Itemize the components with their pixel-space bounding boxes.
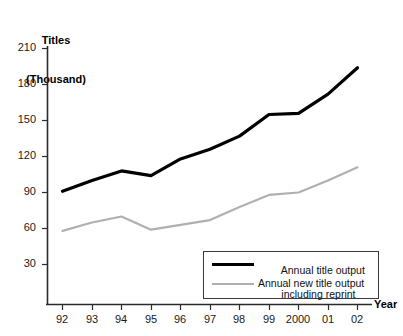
chart-legend: Annual title output including reprint An… [203,251,379,299]
x-tick-label-93: 93 [86,313,98,325]
y-tick-label-120: 120 [2,149,36,161]
x-tick-label-94: 94 [115,313,127,325]
y-tick-label-180: 180 [2,77,36,89]
legend-swatch-gray-line [212,283,254,285]
y-tick-label-30: 30 [2,257,36,269]
x-tick-label-2000: 2000 [286,313,310,325]
y-tick-label-150: 150 [2,113,36,125]
y-tick-label-210: 210 [2,41,36,53]
x-tick-label-92: 92 [56,313,68,325]
x-tick-label-01: 01 [322,313,334,325]
x-tick-label-02: 02 [351,313,363,325]
y-axis-ticks [42,49,47,265]
legend-item-annual-title-output-including-reprint: Annual title output including reprint [204,253,378,277]
series-line-annual-title-output-including-reprint [63,68,358,192]
legend-swatch-black-line [212,263,254,266]
line-chart: Titles (Thousand) Year [0,0,403,336]
x-tick-label-98: 98 [233,313,245,325]
x-tick-label-99: 99 [263,313,275,325]
x-tick-label-95: 95 [145,313,157,325]
legend-label-1: Annual new title output [258,277,364,289]
y-tick-label-60: 60 [2,221,36,233]
legend-label-0-line1: Annual title output [281,264,365,276]
x-tick-label-96: 96 [174,313,186,325]
legend-item-annual-new-title-output: Annual new title output [204,278,378,302]
x-tick-label-97: 97 [204,313,216,325]
y-tick-label-90: 90 [2,185,36,197]
